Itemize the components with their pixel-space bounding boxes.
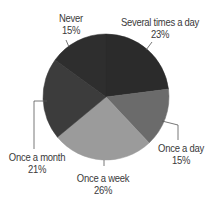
label-never: Never 15%	[58, 12, 84, 36]
leader-line-once-day	[162, 121, 178, 140]
label-never-name: Never	[58, 12, 84, 24]
label-once-day-pct: 15%	[156, 154, 206, 166]
label-once-a-week: Once a week 26%	[75, 172, 132, 196]
pie-slices	[43, 34, 169, 160]
label-once-day-name: Once a day	[156, 142, 206, 154]
label-never-pct: 15%	[58, 24, 84, 36]
label-once-week-pct: 26%	[75, 184, 132, 196]
pie-slice-several-times-a-day	[106, 34, 169, 97]
label-several-name: Several times a day	[120, 16, 199, 28]
label-several-times-a-day: Several times a day 23%	[120, 16, 199, 40]
label-once-a-day: Once a day 15%	[156, 142, 206, 166]
leader-line-never	[66, 40, 69, 47]
label-once-month-pct: 21%	[7, 163, 67, 175]
label-once-week-name: Once a week	[75, 172, 132, 184]
label-several-pct: 23%	[120, 28, 199, 40]
label-once-month-name: Once a month	[7, 151, 67, 163]
leader-line-several	[146, 42, 152, 50]
label-once-a-month: Once a month 21%	[7, 151, 67, 175]
